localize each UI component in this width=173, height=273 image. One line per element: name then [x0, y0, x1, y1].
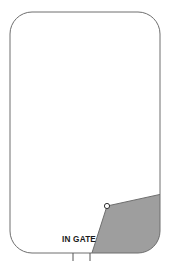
diagram-canvas: IN GATE: [0, 0, 173, 273]
diagram-root: IN GATE: [0, 0, 173, 273]
apex-circle-marker: [104, 203, 109, 208]
in-gate-label: IN GATE: [62, 235, 96, 244]
